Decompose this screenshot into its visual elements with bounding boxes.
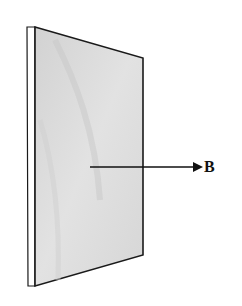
vector-label-b: B [204, 158, 215, 176]
vector-arrow-head [193, 162, 203, 172]
plate-edge [27, 27, 35, 286]
plate-diagram [0, 0, 242, 306]
diagram-canvas [0, 0, 242, 306]
